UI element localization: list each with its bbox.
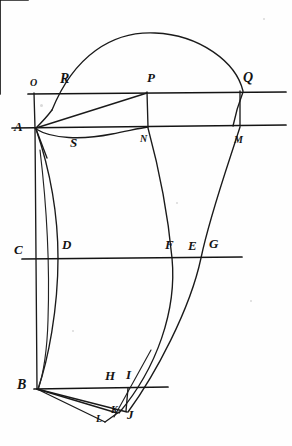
geometric-figure: ORPQASNMCDFEGBHIKJL [0,0,292,446]
line-A-M [12,125,286,128]
point-label-D: D [62,238,71,251]
point-label-C: C [14,243,23,256]
point-label-J: J [127,408,134,421]
point-label-N: N [140,134,147,144]
paper-speck [263,18,265,20]
line-O-Q [28,92,286,94]
chord-A-P [36,93,147,128]
point-label-Q: Q [243,71,253,85]
body-curves-group [36,127,240,417]
point-label-A: A [14,120,23,133]
figure-canvas [0,0,292,446]
line-O-A [34,93,35,128]
line-B-I [34,387,168,389]
point-label-B: B [17,378,26,392]
point-label-G: G [209,237,218,250]
point-label-M: M [234,135,243,145]
line-P-N [147,92,148,127]
curve-A-S-N-path [36,127,148,138]
point-label-P: P [147,71,155,84]
point-label-I: I [126,368,131,381]
curve-Q-outer-down-path [233,92,243,126]
point-label-H: H [105,369,115,382]
paper-speck [72,330,74,332]
paper-speck [176,202,178,204]
point-label-F: F [165,238,174,251]
point-label-E: E [188,239,197,252]
point-label-R: R [60,72,69,86]
point-label-O: O [30,78,37,88]
chord-B-K [37,389,117,413]
paper-speck [250,300,252,302]
point-label-K: K [111,405,118,415]
chord-B-L [37,389,105,422]
line-C-G [22,257,242,259]
point-label-L: L [96,414,102,424]
curve-M-G-J-path [128,127,240,412]
paper-speck [40,104,43,107]
horizontal-lines-group [0,0,286,389]
point-label-S: S [70,136,77,149]
